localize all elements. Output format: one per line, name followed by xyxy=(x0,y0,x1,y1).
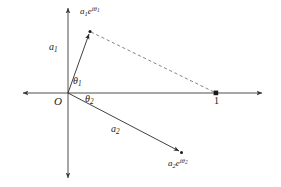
endpoint-label-a1-exp: a1eiθ1 xyxy=(80,6,99,18)
magnitude-a2-label: a2 xyxy=(111,124,120,136)
endpoint-a1-exp-subscript: 1 xyxy=(97,7,100,13)
angle-theta2-subscript: 2 xyxy=(90,98,94,106)
angle-theta2-label: θ2 xyxy=(85,94,94,106)
magnitude-a1-label: a1 xyxy=(49,42,58,54)
vector-a2-endpoint-dot xyxy=(180,151,183,154)
diagram-canvas xyxy=(0,0,281,187)
origin-label: O xyxy=(54,96,62,107)
endpoint-a2-exponent: iθ2 xyxy=(180,157,188,164)
complex-plane-diagram: O 1 a1 a2 θ1 θ2 a1eiθ1 a2eiθ2 xyxy=(0,0,281,187)
endpoint-a2-exp-subscript: 2 xyxy=(185,159,188,165)
vector-a1-endpoint-dot xyxy=(89,30,92,33)
angle-theta1-label: θ1 xyxy=(73,76,82,88)
endpoint-label-a2-exp: a2eiθ2 xyxy=(168,158,187,170)
angle-theta1-subscript: 1 xyxy=(78,80,82,88)
unit-point-label: 1 xyxy=(214,96,219,106)
dashed-chord xyxy=(91,32,214,92)
magnitude-a2-subscript: 2 xyxy=(116,128,120,136)
magnitude-a1-subscript: 1 xyxy=(54,46,58,54)
endpoint-a1-exponent: iθ1 xyxy=(92,5,100,12)
